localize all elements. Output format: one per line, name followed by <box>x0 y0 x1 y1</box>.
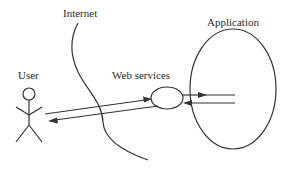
application-ellipse <box>190 29 276 149</box>
user-stick-figure-icon <box>16 88 42 142</box>
application-label: Application <box>207 17 259 28</box>
diagram-canvas: Internet Application User Web services <box>0 0 292 170</box>
web-services-label: Web services <box>112 70 170 81</box>
internet-label: Internet <box>63 8 97 19</box>
internet-boundary-line <box>72 23 148 160</box>
arrow-application-to-web-services <box>183 100 235 106</box>
user-label: User <box>18 70 39 81</box>
